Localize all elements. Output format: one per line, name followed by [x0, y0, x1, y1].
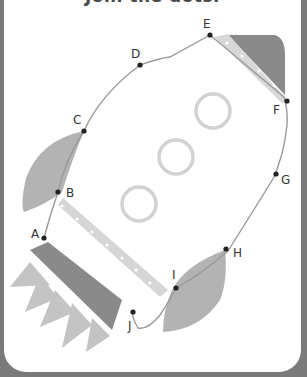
dot-label-i: I: [172, 268, 176, 282]
dot-j[interactable]: [130, 309, 135, 314]
dot-label-f: F: [273, 103, 280, 117]
left-fin: [22, 131, 84, 212]
rocket-puzzle: A B C D E F G H I J: [0, 0, 307, 377]
porthole: [122, 187, 156, 221]
portholes: [122, 94, 230, 221]
dot-label-j: J: [127, 319, 132, 333]
dot-d[interactable]: [137, 62, 142, 67]
dot-i[interactable]: [173, 285, 178, 290]
dot-label-b: B: [66, 186, 74, 200]
porthole: [196, 94, 230, 128]
dot-c[interactable]: [81, 128, 86, 133]
dot-a[interactable]: [41, 235, 46, 240]
dot-e[interactable]: [207, 32, 212, 37]
dot-b[interactable]: [55, 189, 60, 194]
dot-label-c: C: [73, 113, 81, 127]
dot-g[interactable]: [273, 171, 278, 176]
dot-label-a: A: [31, 227, 40, 241]
dot-label-d: D: [131, 47, 140, 61]
dot-label-g: G: [281, 173, 290, 187]
dot-f[interactable]: [284, 98, 289, 103]
dot-label-h: H: [233, 246, 242, 260]
dot-label-e: E: [203, 17, 211, 31]
dot-h[interactable]: [223, 246, 228, 251]
porthole: [159, 140, 193, 174]
right-fin: [163, 250, 226, 332]
